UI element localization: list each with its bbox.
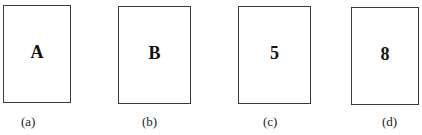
card-b: B bbox=[118, 6, 191, 104]
card-c-face: 5 bbox=[270, 43, 279, 64]
caption-d: (d) bbox=[382, 114, 397, 130]
card-c: 5 bbox=[238, 6, 311, 104]
card-d: 8 bbox=[351, 7, 419, 105]
caption-a: (a) bbox=[21, 114, 35, 130]
card-a-face: A bbox=[31, 42, 44, 63]
card-a: A bbox=[3, 5, 71, 103]
card-d-face: 8 bbox=[381, 44, 390, 65]
caption-c: (c) bbox=[263, 114, 277, 130]
caption-b: (b) bbox=[142, 114, 157, 130]
card-b-face: B bbox=[148, 43, 160, 64]
